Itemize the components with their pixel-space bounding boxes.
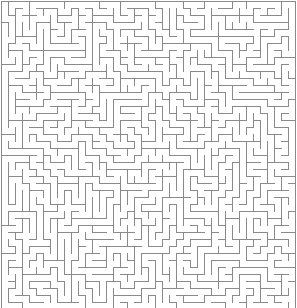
maze-canvas [0, 0, 297, 308]
maze-svg [0, 0, 297, 308]
maze-page [0, 0, 297, 308]
